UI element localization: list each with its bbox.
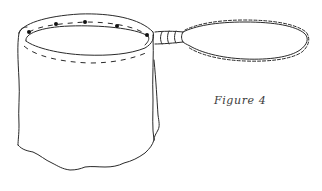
figure-illustration: Figure 4: [0, 0, 322, 191]
wire-loop-handle: [183, 20, 309, 61]
figure-caption: Figure 4: [214, 94, 266, 107]
handle-ferrule: [155, 31, 183, 44]
bag-body: [18, 33, 159, 170]
